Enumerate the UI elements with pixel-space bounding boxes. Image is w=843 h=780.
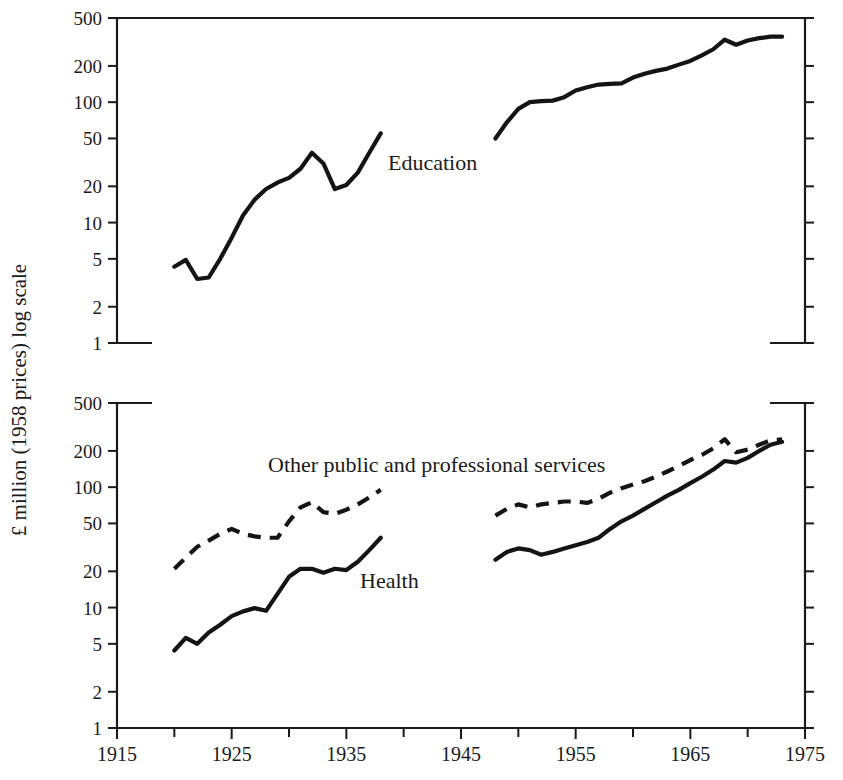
series-label-education: Education: [388, 150, 477, 175]
y-tick-label: 20: [83, 176, 102, 197]
x-tick-label: 1915: [97, 743, 137, 765]
series-path-health: [174, 538, 380, 651]
y-axis-title-group: £ million (1958 prices) log scale: [7, 264, 31, 536]
x-tick-label: 1925: [212, 743, 252, 765]
x-tick-label: 1955: [556, 743, 596, 765]
x-tick-label: 1935: [326, 743, 366, 765]
x-axis-group: 1915192519351945195519651975: [97, 728, 825, 765]
y-tick-label: 100: [74, 477, 103, 498]
y-tick-label: 10: [83, 598, 102, 619]
y-axis-title: £ million (1958 prices) log scale: [7, 264, 31, 536]
y-tick-label: 500: [74, 393, 103, 414]
x-tick-label: 1945: [441, 743, 481, 765]
y-tick-label: 200: [74, 441, 103, 462]
annotations-group: Education Other public and professional …: [268, 150, 605, 593]
y-tick-label: 20: [83, 561, 102, 582]
x-tick-label: 1965: [670, 743, 710, 765]
y-tick-label: 50: [83, 128, 102, 149]
y-tick-label: 2: [93, 297, 103, 318]
series-path-other-public-and-professional-services: [174, 490, 380, 569]
y-tick-label: 200: [74, 56, 103, 77]
y-tick-label: 500: [74, 8, 103, 29]
x-tick-label: 1975: [785, 743, 825, 765]
series-path-education: [174, 133, 380, 279]
series-label-health: Health: [360, 568, 419, 593]
y-tick-label: 50: [83, 513, 102, 534]
series-label-other-public: Other public and professional services: [268, 452, 605, 477]
y-tick-label: 2: [93, 682, 103, 703]
figure-svg: £ million (1958 prices) log scale 125102…: [0, 0, 843, 780]
top-panel: 125102050100200500: [74, 8, 815, 354]
y-tick-label: 1: [93, 333, 103, 354]
bottom-panel: 125102050100200500: [74, 393, 815, 739]
y-tick-label: 100: [74, 92, 103, 113]
y-tick-label: 10: [83, 213, 102, 234]
y-tick-label: 1: [93, 718, 103, 739]
series-path-education: [495, 37, 782, 139]
chart-page: £ million (1958 prices) log scale 125102…: [0, 0, 843, 780]
series-path-other-public-and-professional-services: [495, 439, 782, 515]
y-tick-label: 5: [93, 249, 103, 270]
y-tick-label: 5: [93, 634, 103, 655]
